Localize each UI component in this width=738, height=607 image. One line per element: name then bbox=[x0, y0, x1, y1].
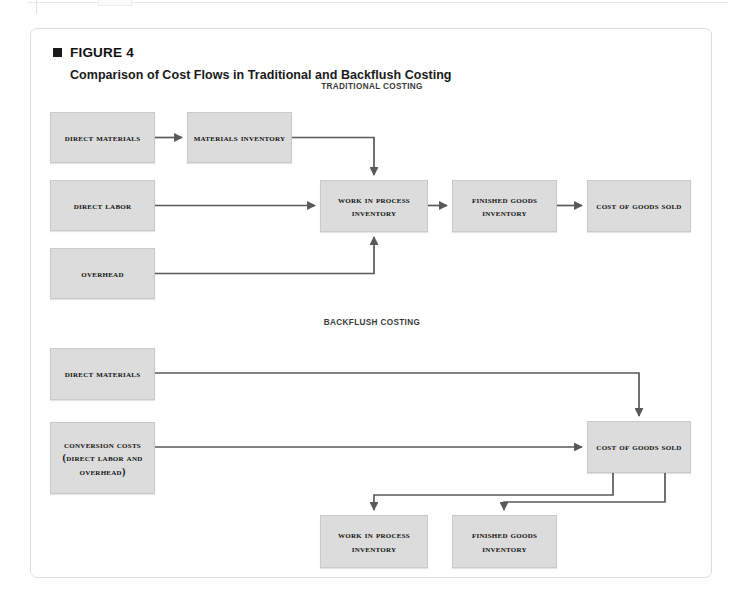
node-backflush-cost-of-goods-sold[interactable]: Cost of Goods Sold bbox=[587, 421, 691, 473]
chrome-horizontal-rule bbox=[28, 2, 728, 3]
figure-card: FIGURE 4 Comparison of Cost Flows in Tra… bbox=[30, 28, 712, 578]
node-traditional-direct-labor[interactable]: Direct Labor bbox=[50, 180, 155, 231]
square-bullet-icon bbox=[53, 48, 62, 57]
node-traditional-direct-materials[interactable]: Direct Materials bbox=[50, 112, 155, 163]
node-label: Materials Inventory bbox=[190, 131, 290, 144]
node-label: Work in Process Inventory bbox=[321, 528, 427, 555]
node-label: Direct Materials bbox=[61, 131, 145, 144]
node-label: Direct Labor bbox=[70, 199, 136, 212]
node-traditional-overhead[interactable]: Overhead bbox=[50, 248, 155, 299]
chrome-vertical-divider bbox=[36, 0, 37, 14]
figure-title: Comparison of Cost Flows in Traditional … bbox=[70, 68, 683, 82]
node-backflush-conversion-costs[interactable]: Conversion Costs (Direct Labor and Overh… bbox=[50, 422, 155, 494]
figure-label-row: FIGURE 4 bbox=[53, 45, 683, 60]
node-label: Overhead bbox=[77, 267, 127, 280]
chrome-widget-fragment bbox=[98, 0, 132, 6]
node-traditional-cost-of-goods-sold[interactable]: Cost of Goods Sold bbox=[587, 180, 691, 232]
node-traditional-materials-inventory[interactable]: Materials Inventory bbox=[187, 112, 292, 163]
node-label: Direct Materials bbox=[61, 367, 145, 380]
node-label: Work in Process Inventory bbox=[321, 193, 427, 220]
node-traditional-work-in-process-inventory[interactable]: Work in Process Inventory bbox=[320, 180, 428, 232]
node-backflush-work-in-process-inventory[interactable]: Work in Process Inventory bbox=[320, 515, 428, 568]
node-backflush-direct-materials[interactable]: Direct Materials bbox=[50, 348, 155, 400]
figure-number: FIGURE 4 bbox=[70, 45, 134, 60]
node-label: Cost of Goods Sold bbox=[592, 440, 685, 453]
node-label: Finished Goods Inventory bbox=[453, 528, 556, 555]
page-chrome-strip bbox=[0, 0, 738, 14]
node-label: Conversion Costs (Direct Labor and Overh… bbox=[51, 438, 154, 478]
node-label: Finished Goods Inventory bbox=[453, 193, 556, 220]
node-traditional-finished-goods-inventory[interactable]: Finished Goods Inventory bbox=[452, 180, 557, 232]
figure-header: FIGURE 4 Comparison of Cost Flows in Tra… bbox=[53, 45, 683, 82]
node-label: Cost of Goods Sold bbox=[592, 199, 685, 212]
node-backflush-finished-goods-inventory[interactable]: Finished Goods Inventory bbox=[452, 515, 557, 568]
